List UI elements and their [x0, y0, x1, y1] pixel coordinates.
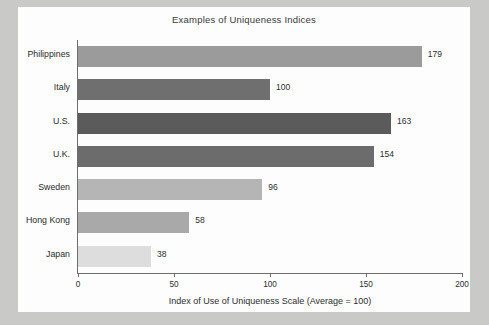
category-label: U.S.	[53, 116, 70, 126]
category-label: Philippines	[27, 49, 70, 59]
x-axis-title: Index of Use of Uniqueness Scale (Averag…	[78, 296, 462, 306]
x-axis-tick-label: 200	[455, 280, 469, 289]
bar-row: Japan38	[78, 240, 462, 273]
chart-page: Examples of Uniqueness Indices Index of …	[0, 0, 489, 325]
bar-value-label: 38	[157, 249, 166, 259]
category-label: U.K.	[53, 149, 70, 159]
bar[interactable]	[78, 246, 151, 267]
bar-value-label: 96	[268, 182, 277, 192]
bar[interactable]	[78, 79, 270, 100]
x-axis-tick	[462, 273, 463, 277]
category-label: Italy	[54, 82, 70, 92]
category-label: Japan	[46, 249, 70, 259]
bar-row: Sweden96	[78, 173, 462, 206]
chart-card: Examples of Uniqueness Indices Index of …	[18, 7, 470, 312]
bar-value-label: 179	[428, 49, 442, 59]
bar-row: Philippines179	[78, 40, 462, 73]
x-axis-tick	[78, 273, 79, 277]
x-axis-tick-label: 50	[169, 280, 178, 289]
bar-value-label: 163	[397, 116, 411, 126]
bar[interactable]	[78, 113, 391, 134]
bar-row: U.K.154	[78, 140, 462, 173]
x-axis-tick-label: 150	[359, 280, 373, 289]
bar-row: Hong Kong58	[78, 206, 462, 239]
x-axis-tick-label: 0	[76, 280, 81, 289]
chart-title: Examples of Uniqueness Indices	[18, 14, 470, 25]
x-axis-tick	[270, 273, 271, 277]
category-label: Hong Kong	[26, 215, 70, 225]
bar[interactable]	[78, 212, 189, 233]
category-label: Sweden	[38, 182, 70, 192]
bar[interactable]	[78, 146, 374, 167]
bar-value-label: 154	[380, 149, 394, 159]
bar-value-label: 100	[276, 82, 290, 92]
bar[interactable]	[78, 46, 422, 67]
x-axis-tick	[174, 273, 175, 277]
x-axis-tick	[366, 273, 367, 277]
bar-row: Italy100	[78, 73, 462, 106]
plot-area: Index of Use of Uniqueness Scale (Averag…	[77, 40, 462, 274]
x-axis-tick-label: 100	[263, 280, 277, 289]
bar-value-label: 58	[195, 215, 204, 225]
bar[interactable]	[78, 179, 262, 200]
bar-row: U.S.163	[78, 107, 462, 140]
